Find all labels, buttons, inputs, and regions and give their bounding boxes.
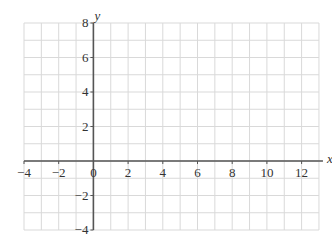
y-tick-label: 8: [82, 15, 89, 30]
y-axis-label: y: [92, 8, 100, 23]
y-tick-label: 2: [82, 119, 89, 134]
x-tick-label: 10: [260, 165, 273, 180]
tick-labels: −4−2024681012−4−22468xy: [17, 8, 332, 237]
x-tick-label: 6: [194, 165, 201, 180]
y-tick-label: −4: [75, 222, 89, 237]
x-tick-label: 2: [125, 165, 132, 180]
x-tick-label: −2: [52, 165, 66, 180]
x-tick-label: 0: [90, 165, 97, 180]
x-tick-label: −4: [17, 165, 31, 180]
x-tick-label: 8: [229, 165, 236, 180]
y-tick-label: 6: [82, 50, 89, 65]
x-tick-label: 4: [160, 165, 167, 180]
x-axis-label: x: [326, 151, 332, 166]
y-tick-label: −2: [75, 188, 89, 203]
coordinate-grid: −4−2024681012−4−22468xy: [0, 0, 332, 246]
x-tick-label: 12: [295, 165, 308, 180]
y-tick-label: 4: [82, 84, 89, 99]
grid-lines: [24, 23, 319, 230]
